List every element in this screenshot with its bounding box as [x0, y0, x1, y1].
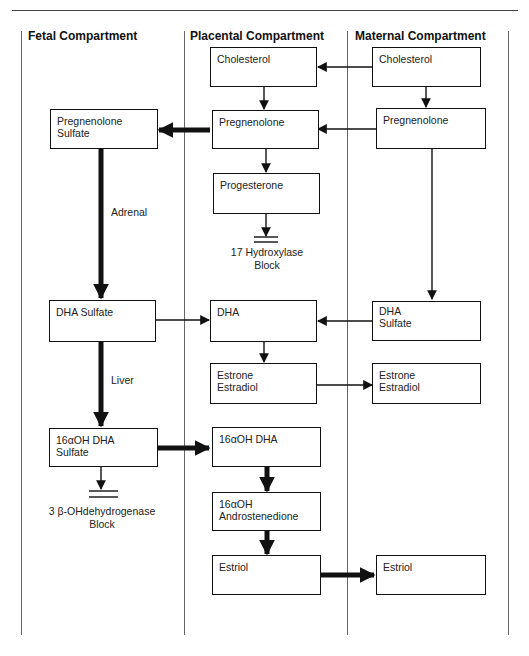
- node-label: Cholesterol: [217, 53, 310, 65]
- node-label: Pregnenolone: [57, 115, 151, 127]
- node-maternal-estrone-estradiol: Estrone Estradiol: [372, 363, 481, 404]
- node-label: Estriol: [383, 561, 479, 573]
- node-label: Estrone: [379, 369, 474, 381]
- node-placental-16aoh-androstenedione: 16αOH Androstenedione: [212, 492, 321, 531]
- node-placental-pregnenolone: Pregnenolone: [212, 110, 319, 149]
- node-label: Androstenedione: [219, 510, 314, 522]
- node-placental-cholesterol: Cholesterol: [210, 47, 317, 87]
- node-placental-dha: DHA: [210, 300, 317, 342]
- node-placental-progesterone: Progesterone: [213, 173, 320, 214]
- node-label: Estradiol: [217, 381, 310, 393]
- node-label: DHA: [379, 305, 474, 317]
- node-label: Estradiol: [379, 381, 474, 393]
- node-label: Progesterone: [220, 179, 313, 191]
- node-label: Sulfate: [379, 317, 474, 329]
- node-placental-estriol: Estriol: [212, 555, 321, 595]
- node-label: Cholesterol: [379, 53, 474, 65]
- node-label: Sulfate: [57, 127, 151, 139]
- node-label: 16αOH: [219, 498, 314, 510]
- node-label: DHA Sulfate: [56, 306, 149, 318]
- dehydrogenase-block-label: 3 β-OHdehydrogenase Block: [42, 505, 162, 531]
- node-placental-16aoh-dha: 16αOH DHA: [212, 427, 321, 467]
- node-fetal-pregnenolone-sulfate: Pregnenolone Sulfate: [50, 109, 158, 149]
- node-label: Sulfate: [56, 446, 151, 458]
- node-label: Estrone: [217, 369, 310, 381]
- node-maternal-estriol: Estriol: [376, 555, 486, 595]
- node-label: Pregnenolone: [383, 114, 479, 126]
- node-maternal-cholesterol: Cholesterol: [372, 47, 481, 87]
- node-maternal-pregnenolone: Pregnenolone: [376, 108, 486, 149]
- node-label: Estriol: [219, 561, 314, 573]
- node-fetal-dha-sulfate: DHA Sulfate: [49, 300, 156, 342]
- node-label: 16αOH DHA: [56, 434, 151, 446]
- node-fetal-16aoh-dha-sulfate: 16αOH DHA Sulfate: [49, 428, 158, 467]
- node-label: Pregnenolone: [219, 116, 312, 128]
- node-label: DHA: [217, 306, 310, 318]
- node-maternal-dha-sulfate: DHA Sulfate: [372, 301, 481, 341]
- liver-label: Liver: [111, 374, 134, 387]
- hydroxylase-block-label: 17 Hydroxylase Block: [222, 246, 312, 272]
- adrenal-label: Adrenal: [111, 206, 147, 219]
- node-label: 16αOH DHA: [219, 433, 314, 445]
- node-placental-estrone-estradiol: Estrone Estradiol: [210, 363, 317, 404]
